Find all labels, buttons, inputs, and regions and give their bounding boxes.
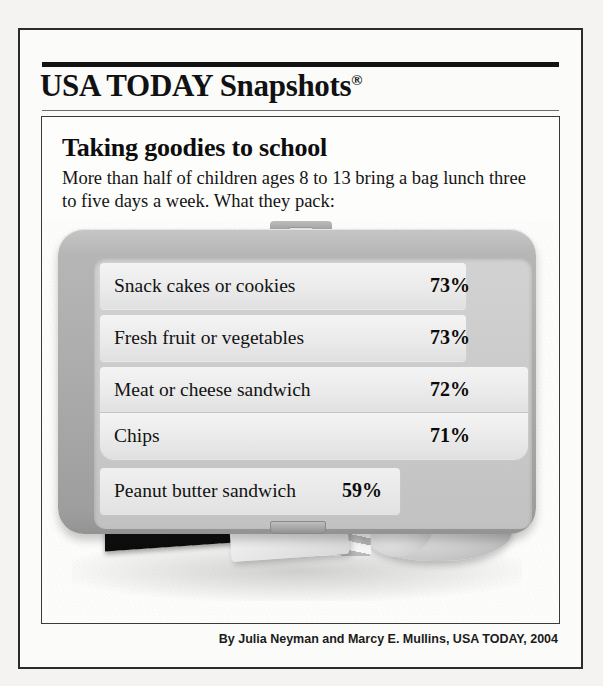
- lunchbox-body: Snack cakes or cookies 73% Fresh fruit o…: [58, 229, 536, 534]
- snapshot-page: USA TODAY Snapshots® Taking goodies to s…: [0, 0, 603, 686]
- masthead-rule-bottom: [42, 110, 559, 111]
- table-row: Fresh fruit or vegetables 73%: [100, 315, 466, 361]
- masthead-brand: USA TODAY Snapshots: [40, 68, 351, 103]
- row-value: 73%: [430, 326, 470, 349]
- subtitle: More than half of children ages 8 to 13 …: [62, 167, 532, 213]
- data-row-list: Snack cakes or cookies 73% Fresh fruit o…: [100, 263, 528, 525]
- chart-panel: Taking goodies to school More than half …: [41, 116, 560, 624]
- row-label: Peanut butter sandwich: [114, 480, 296, 502]
- illustration-stage: MILK Snack cakes or cookies 73%: [42, 221, 558, 624]
- row-label: Meat or cheese sandwich: [114, 379, 311, 401]
- row-value: 73%: [430, 274, 470, 297]
- registered-mark-icon: ®: [351, 72, 362, 88]
- masthead-title: USA TODAY Snapshots®: [40, 68, 560, 108]
- table-row: Peanut butter sandwich 59%: [100, 468, 400, 514]
- row-value: 59%: [342, 479, 382, 502]
- page-title: Taking goodies to school: [62, 133, 327, 163]
- table-row: Chips 71%: [100, 413, 528, 459]
- masthead-rule-top: [42, 62, 559, 67]
- row-value: 71%: [430, 424, 470, 447]
- byline: By Julia Neyman and Marcy E. Mullins, US…: [0, 632, 558, 646]
- table-row: Snack cakes or cookies 73%: [100, 263, 466, 309]
- row-label: Chips: [114, 425, 160, 447]
- row-label: Snack cakes or cookies: [114, 275, 295, 297]
- row-label: Fresh fruit or vegetables: [114, 327, 304, 349]
- lunchbox-latch-icon: [270, 521, 326, 534]
- table-row: Meat or cheese sandwich 72%: [100, 367, 528, 413]
- row-value: 72%: [430, 378, 470, 401]
